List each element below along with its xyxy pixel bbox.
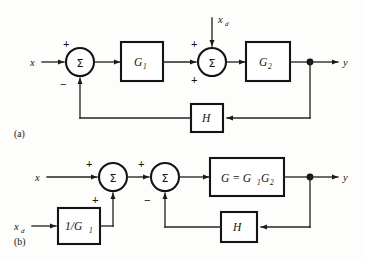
sigma-symbol-2-a: Σ — [209, 57, 216, 70]
input-label-xd-subscript-a: d — [225, 20, 229, 27]
block-h-label-b: H — [232, 221, 242, 233]
block-g1-subscript-a: 1 — [143, 62, 147, 71]
sigma-symbol-2-b: Σ — [162, 172, 169, 185]
sign-plus-sum1-b: + — [86, 158, 93, 170]
input-label-xd-b: x — [13, 221, 19, 232]
panel-label-b: (b) — [14, 236, 25, 248]
figure-root: x Σ + − G 1 x d Σ + + G 2 y — [0, 0, 365, 259]
sign-plus-top-sum2-a: + — [191, 38, 198, 50]
sign-plus-sum1-a: + — [63, 38, 70, 50]
input-label-x-a: x — [29, 57, 35, 68]
block-g-combined-subscript2-b: 2 — [270, 178, 274, 187]
sign-minus-sum1-a: − — [60, 78, 67, 90]
block-g-combined-label-b: G = G — [221, 172, 252, 184]
input-label-xd-a: x — [217, 14, 223, 25]
block-g-combined-label2-b: G — [261, 172, 270, 184]
panel-label-a: (a) — [14, 128, 25, 140]
sign-plus-bottom-sum2-a: + — [191, 74, 198, 86]
sign-plus-sum2-b: + — [138, 158, 145, 170]
input-label-x-b: x — [34, 172, 40, 183]
block-inverse-g1-subscript-b: 1 — [89, 226, 93, 235]
block-h-label-a: H — [201, 112, 211, 124]
sigma-symbol-1-b: Σ — [110, 172, 117, 185]
block-g2-label-a: G — [259, 56, 268, 68]
sign-plus-lower-sum1-b: + — [92, 194, 99, 206]
block-inverse-g1-label-b: 1/G — [65, 220, 83, 232]
output-label-y-a: y — [342, 57, 348, 68]
sign-minus-sum2-b: − — [144, 194, 151, 206]
sigma-symbol-1-a: Σ — [77, 57, 84, 70]
output-label-y-b: y — [342, 172, 348, 183]
block-diagram-canvas: x Σ + − G 1 x d Σ + + G 2 y — [0, 0, 365, 259]
block-g1-label-a: G — [134, 56, 143, 68]
input-label-xd-subscript-b: d — [21, 227, 25, 234]
block-g2-subscript-a: 2 — [268, 62, 272, 71]
